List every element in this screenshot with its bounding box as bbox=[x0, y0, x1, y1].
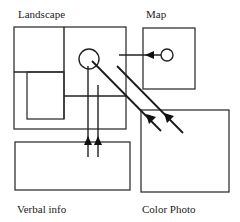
map-label: Map bbox=[146, 8, 167, 20]
verbal-info-box bbox=[15, 142, 130, 190]
map-location-circle bbox=[161, 49, 173, 61]
information-sources-diagram: Landscape Map Verbal info Color Photo bbox=[0, 0, 240, 222]
landscape-label: Landscape bbox=[18, 8, 65, 20]
landscape-inner-box bbox=[27, 72, 64, 119]
map-box bbox=[143, 28, 195, 89]
map-arrowhead-icon bbox=[145, 51, 154, 59]
photo-to-landscape-arrows bbox=[92, 61, 183, 133]
diagonal-arrowhead-icon bbox=[146, 114, 156, 124]
up-arrowhead-icon bbox=[94, 136, 102, 145]
up-arrowhead-icon bbox=[84, 136, 92, 145]
verbal-to-landscape-arrows bbox=[84, 66, 102, 157]
color-photo-box bbox=[141, 110, 229, 192]
verbal-info-label: Verbal info bbox=[17, 203, 67, 215]
color-photo-label: Color Photo bbox=[142, 203, 196, 215]
